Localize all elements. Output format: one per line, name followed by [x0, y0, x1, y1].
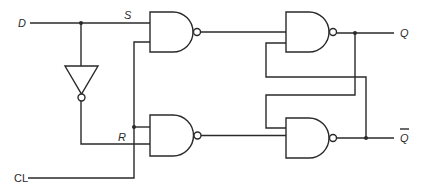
circuit-diagram: D CL S R Q Q: [0, 0, 430, 196]
inverter-output-wire: [81, 101, 150, 144]
nand-r-bubble: [194, 132, 201, 139]
inverter-bubble: [78, 94, 85, 101]
label-q-bar: Q: [400, 132, 409, 144]
clock-wire: [28, 42, 150, 178]
nand-gate-r: [150, 115, 201, 156]
nand-q-bubble: [330, 29, 337, 36]
nand-gate-s: [150, 12, 201, 52]
label-s: S: [124, 9, 132, 21]
clock-junction-dot: [132, 125, 136, 129]
nand-gate-q: [286, 12, 337, 52]
label-r: R: [118, 131, 126, 143]
nand-gate-qbar: [286, 118, 337, 158]
label-d: D: [18, 17, 26, 29]
label-cl: CL: [14, 172, 28, 184]
nand-qbar-bubble: [330, 135, 337, 142]
nand-s-bubble: [194, 29, 201, 36]
label-q: Q: [400, 27, 409, 39]
inverter-gate: [65, 66, 98, 101]
